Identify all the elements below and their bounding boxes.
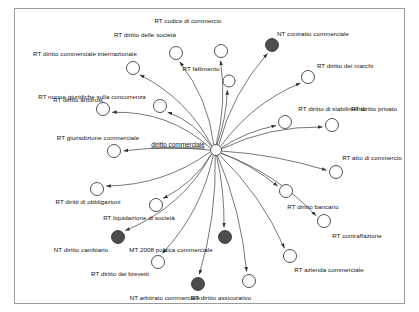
nodes-layer: [91, 39, 343, 291]
graph-edge: [216, 61, 223, 144]
graph-edge: [222, 127, 323, 149]
graph-node[interactable]: [170, 47, 183, 60]
graph-node[interactable]: [150, 199, 163, 212]
graph-node[interactable]: [318, 215, 331, 228]
graph-svg: [0, 0, 419, 312]
graph-edge: [222, 151, 327, 170]
graph-node[interactable]: [152, 256, 165, 269]
graph-edge: [125, 154, 211, 231]
center-node-label: diritto commerciale: [151, 141, 205, 148]
graph-node[interactable]: [223, 75, 235, 87]
graph-node[interactable]: [192, 278, 205, 291]
graph-node[interactable]: [284, 250, 297, 263]
graph-edge: [140, 75, 212, 146]
graph-edge: [199, 156, 215, 274]
graph-node[interactable]: [154, 100, 167, 113]
graph-node[interactable]: [219, 231, 232, 244]
graph-node[interactable]: [280, 185, 293, 198]
graph-edge: [180, 62, 214, 144]
graph-edge: [219, 54, 268, 145]
graph-edge: [217, 90, 227, 144]
graph-node[interactable]: [91, 183, 104, 196]
graph-node[interactable]: [326, 119, 339, 132]
graph-edge: [217, 156, 224, 227]
graph-node[interactable]: [266, 39, 279, 52]
graph-node[interactable]: [97, 103, 110, 116]
graph-edge: [222, 126, 276, 148]
edges-layer: [106, 54, 326, 275]
graph-node[interactable]: [279, 116, 292, 129]
graph-edge: [124, 148, 210, 151]
graph-node[interactable]: [243, 275, 256, 288]
graph-edge: [163, 154, 211, 198]
graph-node[interactable]: [330, 166, 343, 179]
diagram-canvas: RT codice di commercioRT diritto delle s…: [0, 0, 419, 312]
graph-node[interactable]: [215, 45, 228, 58]
graph-edge: [217, 156, 246, 272]
center-node[interactable]: [211, 145, 222, 156]
graph-node[interactable]: [127, 62, 140, 75]
graph-node[interactable]: [302, 71, 315, 84]
graph-edge: [106, 152, 210, 186]
graph-edge: [221, 153, 277, 186]
graph-node[interactable]: [108, 145, 121, 158]
graph-node[interactable]: [112, 231, 125, 244]
graph-edge: [221, 83, 301, 146]
